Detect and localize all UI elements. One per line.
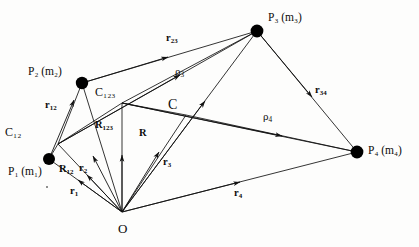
vector-label-r12: r12 [45, 100, 57, 112]
vector-label-r2: r2 [79, 163, 87, 175]
node-p4[interactable] [351, 146, 364, 159]
diagram-canvas: P₁ (m₁) P₂ (m₂) P₃ (m₃) P₄ (m₄) O C₁₂ C₁… [0, 0, 419, 247]
vector-label-rho4: ρ4 [263, 111, 272, 124]
vector-label-r3: r3 [163, 157, 171, 169]
vector-label-r4: r4 [234, 188, 242, 200]
vector-label-R123: R123 [95, 120, 113, 132]
vector-label-rho3: ρ3 [175, 66, 184, 79]
seg-c123-p3 [122, 31, 257, 103]
seg-c12-p2 [58, 83, 82, 144]
ink-speck [46, 186, 48, 188]
node-p2[interactable] [76, 77, 88, 89]
vector-arrowheads [49, 31, 312, 212]
vector-label-R: R [139, 128, 147, 140]
arrow-R12 [87, 175, 122, 212]
particle-label-p2: P₂ (m₂) [28, 66, 62, 78]
particle-label-p1: P₁ (m₁) [8, 166, 42, 178]
vector-label-r23: r23 [166, 33, 178, 45]
node-p1[interactable] [43, 153, 55, 165]
arrow-R [122, 152, 159, 212]
seg-c-o [122, 115, 186, 212]
particle-label-p3: P₃ (m₃) [268, 12, 302, 24]
arrow-r4 [122, 182, 240, 212]
origin-label-o: O [118, 222, 127, 235]
vector-label-r34: r34 [315, 85, 327, 97]
vector-label-r1: r1 [70, 186, 78, 198]
vector-label-R12: R12 [59, 164, 74, 176]
node-p3[interactable] [251, 25, 264, 38]
arrow-r23 [82, 57, 168, 83]
arrow-r1 [78, 180, 122, 212]
seg-p2-o [82, 83, 122, 212]
centre-label-c: C [168, 98, 177, 112]
particle-label-p4: P₄ (m₄) [368, 145, 402, 157]
centre-label-c12: C₁₂ [5, 126, 21, 138]
centre-label-c123: C₁₂₃ [95, 86, 116, 98]
arrow-r34 [257, 31, 312, 97]
vector-diagram-svg [0, 0, 419, 247]
